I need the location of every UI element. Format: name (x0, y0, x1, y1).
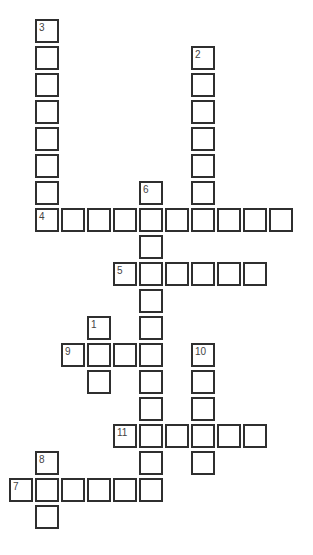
crossword-cell[interactable] (191, 424, 215, 448)
crossword-cell[interactable] (139, 208, 163, 232)
crossword-cell[interactable] (191, 127, 215, 151)
crossword-cell[interactable] (191, 73, 215, 97)
crossword-cell[interactable] (243, 208, 267, 232)
clue-number: 4 (39, 211, 45, 222)
crossword-cell[interactable] (61, 208, 85, 232)
crossword-cell[interactable] (35, 46, 59, 70)
crossword-cell[interactable]: 4 (35, 208, 59, 232)
crossword-cell[interactable] (139, 316, 163, 340)
crossword-cell[interactable] (191, 262, 215, 286)
crossword-cell[interactable] (191, 154, 215, 178)
crossword-cell[interactable] (139, 262, 163, 286)
crossword-cell[interactable] (35, 505, 59, 529)
crossword-cell[interactable] (61, 478, 85, 502)
crossword-cell[interactable] (139, 235, 163, 259)
crossword-cell[interactable] (165, 262, 189, 286)
clue-number: 10 (195, 346, 206, 357)
clue-number: 3 (39, 22, 45, 33)
crossword-cell[interactable] (243, 262, 267, 286)
crossword-cell[interactable] (139, 370, 163, 394)
crossword-cell[interactable] (139, 451, 163, 475)
clue-number: 5 (117, 265, 123, 276)
crossword-cell[interactable] (35, 154, 59, 178)
crossword-cell[interactable] (139, 424, 163, 448)
crossword-cell[interactable] (139, 289, 163, 313)
crossword-cell[interactable] (113, 208, 137, 232)
crossword-cell[interactable] (269, 208, 293, 232)
clue-number: 9 (65, 346, 71, 357)
crossword-cell[interactable] (113, 478, 137, 502)
crossword-cell[interactable] (35, 478, 59, 502)
crossword-cell[interactable]: 6 (139, 181, 163, 205)
crossword-cell[interactable] (87, 208, 111, 232)
clue-number: 1 (91, 319, 97, 330)
crossword-cell[interactable]: 2 (191, 46, 215, 70)
crossword-cell[interactable] (35, 100, 59, 124)
crossword-cell[interactable]: 8 (35, 451, 59, 475)
crossword-cell[interactable]: 9 (61, 343, 85, 367)
clue-number: 8 (39, 454, 45, 465)
crossword-cell[interactable] (191, 208, 215, 232)
crossword-cell[interactable] (191, 100, 215, 124)
crossword-cell[interactable]: 5 (113, 262, 137, 286)
crossword-cell[interactable]: 11 (113, 424, 137, 448)
crossword-cell[interactable]: 7 (9, 478, 33, 502)
crossword-cell[interactable] (243, 424, 267, 448)
clue-number: 7 (13, 481, 19, 492)
crossword-cell[interactable] (35, 73, 59, 97)
crossword-cell[interactable] (217, 262, 241, 286)
crossword-cell[interactable]: 1 (87, 316, 111, 340)
crossword-cell[interactable] (87, 370, 111, 394)
crossword-cell[interactable] (191, 370, 215, 394)
crossword-cell[interactable] (87, 343, 111, 367)
crossword-cell[interactable] (191, 397, 215, 421)
clue-number: 2 (195, 49, 201, 60)
crossword-cell[interactable]: 3 (35, 19, 59, 43)
crossword-cell[interactable] (191, 451, 215, 475)
crossword-cell[interactable]: 10 (191, 343, 215, 367)
crossword-cell[interactable] (139, 478, 163, 502)
crossword-grid: 1234567891011 (0, 0, 313, 555)
crossword-cell[interactable] (87, 478, 111, 502)
clue-number: 6 (143, 184, 149, 195)
crossword-cell[interactable] (35, 127, 59, 151)
crossword-cell[interactable] (165, 208, 189, 232)
crossword-cell[interactable] (35, 181, 59, 205)
crossword-cell[interactable] (139, 397, 163, 421)
crossword-cell[interactable] (217, 424, 241, 448)
crossword-cell[interactable] (165, 424, 189, 448)
crossword-cell[interactable] (139, 343, 163, 367)
clue-number: 11 (117, 427, 127, 438)
crossword-cell[interactable] (191, 181, 215, 205)
crossword-cell[interactable] (113, 343, 137, 367)
crossword-cell[interactable] (217, 208, 241, 232)
